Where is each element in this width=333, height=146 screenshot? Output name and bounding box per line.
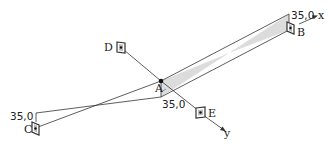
dimension-near-a: 35,0 xyxy=(162,99,185,110)
point-d-icon xyxy=(117,42,125,53)
point-b-icon xyxy=(287,22,294,34)
axis-label-y: y xyxy=(224,128,230,139)
label-e: E xyxy=(208,108,216,119)
line-c-top-a-bottom xyxy=(36,97,161,113)
label-c: C xyxy=(24,124,32,135)
point-e-icon xyxy=(196,107,205,118)
axis-label-x: x xyxy=(318,10,324,21)
diagram-drawing xyxy=(0,0,333,146)
point-c-icon xyxy=(32,122,39,135)
shaded-triangle-b xyxy=(229,14,289,53)
line-c-a xyxy=(38,81,161,127)
line-d-a xyxy=(124,50,161,81)
line-a-bottom-b xyxy=(161,30,289,97)
label-d: D xyxy=(104,42,113,53)
label-a: A xyxy=(155,83,163,94)
diagram-canvas: D A B C E x y 35,0 35,0 35,0 xyxy=(0,0,333,146)
line-a-top-b xyxy=(161,14,289,81)
label-b: B xyxy=(297,27,305,38)
dimension-near-b: 35,0 xyxy=(291,10,314,21)
dimension-near-c: 35,0 xyxy=(10,111,33,122)
shaded-triangle-a xyxy=(161,53,229,97)
